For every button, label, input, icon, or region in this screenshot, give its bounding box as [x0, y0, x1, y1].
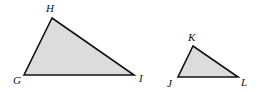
- vertex-label-l: L: [240, 76, 247, 88]
- vertex-label-g: G: [13, 74, 21, 86]
- vertex-label-j: J: [167, 77, 173, 89]
- vertex-label-i: I: [138, 72, 144, 84]
- vertex-label-h: H: [45, 2, 55, 14]
- vertex-label-k: K: [187, 31, 196, 43]
- triangle-ghi: [24, 18, 134, 75]
- triangle-jkl: [178, 46, 238, 77]
- similar-triangles-diagram: H G I K J L: [0, 0, 259, 92]
